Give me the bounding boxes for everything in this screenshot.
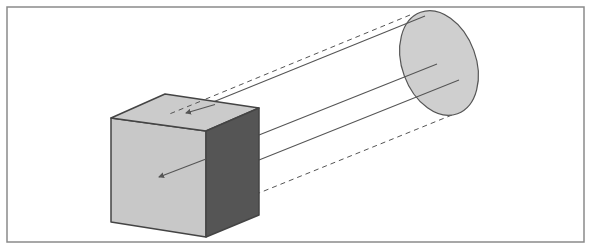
cube-front-face [111, 118, 206, 237]
projection-diagram [0, 0, 589, 245]
cube-side-face [206, 108, 259, 237]
frame-border [7, 7, 584, 242]
diagram-frame [7, 7, 584, 242]
cube [111, 94, 259, 237]
